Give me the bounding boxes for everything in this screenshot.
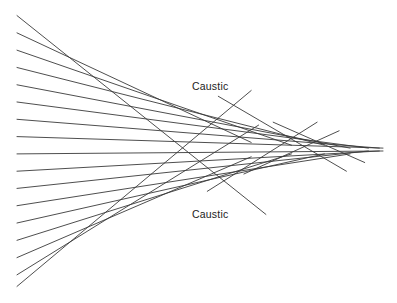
ray-lower — [17, 91, 251, 287]
ray-upper — [17, 68, 324, 146]
ray-lower — [17, 154, 292, 240]
caustic-label-lower: Caustic — [192, 208, 228, 220]
ray-lower — [17, 151, 379, 171]
caustic-label-upper: Caustic — [192, 80, 228, 92]
caustic-diagram — [0, 0, 397, 303]
ray-group — [17, 16, 383, 287]
ray-upper — [17, 50, 292, 145]
ray-upper — [17, 119, 379, 148]
ray-crossing — [207, 122, 317, 191]
ray-lower — [17, 154, 324, 223]
ray-lower — [17, 151, 368, 188]
